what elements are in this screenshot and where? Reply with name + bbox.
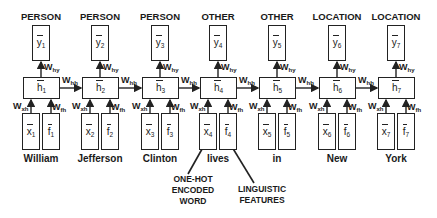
weight-label-hh: Whh [298, 75, 314, 86]
hidden-state-box: h7 [378, 77, 415, 99]
input-word: Clinton [143, 153, 177, 164]
weight-label-hh: Whh [358, 75, 374, 86]
hidden-state-box: h6 [319, 77, 356, 99]
weight-subscript: hh [248, 80, 255, 86]
weight-symbol: W [44, 62, 53, 72]
output-box: y1 [32, 25, 50, 61]
weight-symbol: W [340, 62, 349, 72]
feature-input-box: f3 [161, 113, 179, 150]
vector-variable: x3 [146, 126, 155, 138]
weight-label-hy: Why [44, 62, 60, 73]
ner-label: OTHER [201, 11, 234, 22]
weight-symbol: W [368, 101, 377, 111]
weight-subscript: hy [349, 67, 356, 73]
weight-subscript: fh [120, 107, 126, 113]
weight-label-fh: Wfh [111, 102, 125, 113]
weight-subscript: xh [318, 106, 325, 112]
weight-subscript: xh [141, 106, 148, 112]
feature-input-box: f1 [42, 113, 60, 150]
annotation-line: LINGUISTIC [238, 184, 286, 195]
variable-index: 1 [32, 131, 36, 138]
weight-label-xh: Wxh [13, 101, 29, 112]
weight-subscript: hy [53, 67, 60, 73]
weight-symbol: W [407, 102, 416, 112]
weight-symbol: W [399, 62, 408, 72]
weight-label-xh: Wxh [368, 101, 384, 112]
weight-label-xh: Wxh [132, 101, 148, 112]
weight-subscript: hy [408, 67, 415, 73]
vector-variable: y2 [96, 37, 105, 49]
vector-variable: h6 [333, 82, 342, 94]
variable-index: 5 [268, 131, 272, 138]
word-input-box: x7 [377, 113, 395, 150]
vector-variable: h2 [96, 82, 105, 94]
weight-subscript: hh [71, 80, 78, 86]
weight-symbol: W [121, 75, 130, 85]
variable-index: 1 [42, 87, 46, 94]
variable-index: 6 [347, 131, 351, 138]
weight-subscript: fh [357, 107, 363, 113]
variable-index: 4 [219, 87, 223, 94]
weight-subscript: fh [238, 107, 244, 113]
weight-symbol: W [348, 102, 357, 112]
weight-symbol: W [132, 101, 141, 111]
annotation-line: ENCODED [172, 185, 215, 196]
weight-label-hh: Whh [239, 75, 255, 86]
weight-symbol: W [229, 102, 238, 112]
annotation-line: ONE-HOT [172, 174, 215, 185]
weight-subscript: xh [199, 106, 206, 112]
weight-symbol: W [358, 75, 367, 85]
input-word: New [327, 153, 348, 164]
vector-variable: y3 [156, 37, 165, 49]
annotation-one-hot-encoded-word: ONE-HOT ENCODED WORD [172, 174, 215, 207]
word-input-box: x4 [199, 113, 217, 150]
feature-input-box: f7 [397, 113, 415, 150]
weight-symbol: W [280, 62, 289, 72]
weight-symbol: W [249, 101, 258, 111]
annotation-line: WORD [172, 196, 215, 207]
weight-symbol: W [190, 101, 199, 111]
weight-label-hh: Whh [181, 75, 197, 86]
ner-label: PERSON [80, 11, 120, 22]
variable-index: 6 [338, 42, 342, 49]
variable-index: 1 [51, 131, 55, 138]
weight-symbol: W [288, 102, 297, 112]
feature-input-box: f6 [338, 113, 356, 150]
vector-variable: f2 [107, 126, 113, 138]
variable-index: 7 [406, 131, 410, 138]
weight-subscript: xh [22, 106, 29, 112]
variable-index: 3 [151, 131, 155, 138]
weight-subscript: fh [180, 107, 186, 113]
word-input-box: x5 [258, 113, 276, 150]
hidden-state-box: h1 [23, 77, 60, 99]
variable-index: 2 [110, 131, 114, 138]
weight-subscript: xh [258, 106, 265, 112]
input-word: Jefferson [77, 153, 122, 164]
weight-subscript: xh [377, 106, 384, 112]
weight-symbol: W [171, 102, 180, 112]
weight-subscript: hy [289, 67, 296, 73]
weight-symbol: W [72, 101, 81, 111]
hidden-state-box: h4 [200, 77, 237, 99]
vector-variable: f1 [48, 126, 54, 138]
vector-variable: f6 [344, 126, 350, 138]
variable-index: 7 [387, 131, 391, 138]
vector-variable: x2 [86, 126, 95, 138]
variable-index: 7 [397, 87, 401, 94]
weight-label-fh: Wfh [407, 102, 421, 113]
input-word: York [385, 153, 407, 164]
output-box: y2 [91, 25, 109, 61]
variable-index: 4 [209, 131, 213, 138]
vector-variable: x5 [263, 126, 272, 138]
weight-subscript: hy [230, 67, 237, 73]
weight-label-hy: Why [340, 62, 356, 73]
ner-label: PERSON [140, 11, 180, 22]
output-box: y3 [151, 25, 169, 61]
vector-variable: x7 [382, 126, 391, 138]
weight-label-fh: Wfh [229, 102, 243, 113]
vector-variable: x4 [204, 126, 213, 138]
hidden-state-box: h3 [142, 77, 179, 99]
vector-variable: y5 [273, 37, 282, 49]
vector-variable: h7 [392, 82, 401, 94]
feature-input-box: f4 [219, 113, 237, 150]
